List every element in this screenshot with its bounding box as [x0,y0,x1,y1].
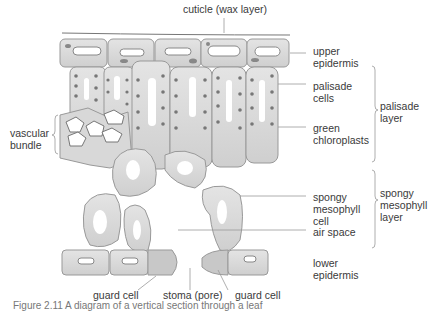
lower-epidermis [62,250,268,275]
label-lower-epidermis: lower epidermis [313,257,359,281]
label-vascular-bundle: vascular bundle [10,127,49,151]
label-green-chloroplasts: green chloroplasts [313,122,369,146]
label-palisade-cells: palisade cells [313,80,352,104]
upper-epidermis [60,39,289,67]
label-upper-epidermis: upper epidermis [313,45,359,69]
label-cuticle: cuticle (wax layer) [183,3,267,15]
leaf-section-diagram [0,0,431,311]
label-palisade-layer: palisade layer [380,100,419,124]
figure-caption: Figure 2.11 A diagram of a vertical sect… [13,300,262,311]
label-spongy-cell: spongy mesophyll cell [313,191,360,227]
label-air-space: air space [313,226,356,238]
cuticle [62,18,290,35]
label-spongy-layer: spongy mesophyll layer [380,187,427,223]
